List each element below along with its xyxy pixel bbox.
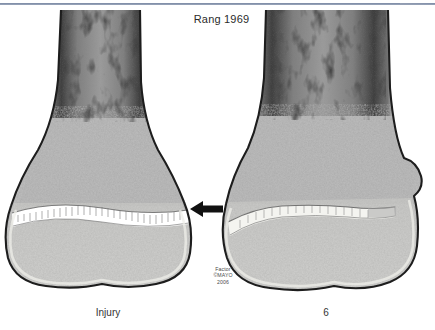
top-divider-rule-fade bbox=[400, 3, 435, 5]
top-divider-rule bbox=[0, 3, 435, 5]
credit-line-3: 2006 bbox=[203, 279, 243, 285]
growth-plate-arrow bbox=[190, 200, 223, 218]
specimen-injury bbox=[0, 10, 213, 295]
specimen-injury-image bbox=[0, 10, 213, 295]
specimen-followup-image bbox=[218, 10, 433, 295]
specimen-followup bbox=[218, 10, 433, 295]
credit-block: Factor ©MAYO 2006 bbox=[203, 266, 243, 285]
figure-slide: Rang 1969 bbox=[0, 0, 435, 330]
bone-body bbox=[0, 10, 213, 295]
specimen-injury-caption: Injury bbox=[0, 307, 216, 318]
specimen-followup-caption: 6 bbox=[218, 307, 434, 318]
left-pointing-arrow-icon bbox=[190, 200, 223, 218]
